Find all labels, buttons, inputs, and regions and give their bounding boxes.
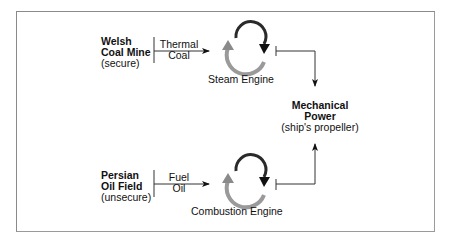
steam-output-connector: [276, 46, 315, 86]
oil-source-label: Persian Oil Field (unsecure): [101, 170, 151, 203]
output-line3: (ship's propeller): [270, 122, 370, 133]
combustion-output-connector: [276, 144, 315, 190]
steam-engine-label: Steam Engine: [208, 74, 274, 85]
oil-fuel-line2: Oil: [157, 183, 201, 194]
oil-fuel-label: Fuel Oil: [157, 172, 201, 194]
coal-fuel-label: Thermal Coal: [157, 39, 201, 61]
steam-engine-cycle-icon: [222, 22, 270, 75]
coal-source-label: Welsh Coal Mine (secure): [101, 36, 151, 69]
coal-source-status: (secure): [101, 58, 151, 69]
coal-fuel-line2: Coal: [157, 50, 201, 61]
oil-source-status: (unsecure): [101, 192, 151, 203]
combustion-engine-cycle-icon: [222, 155, 270, 208]
combustion-engine-label: Combustion Engine: [191, 206, 283, 217]
mechanical-power-label: Mechanical Power (ship's propeller): [270, 100, 370, 133]
